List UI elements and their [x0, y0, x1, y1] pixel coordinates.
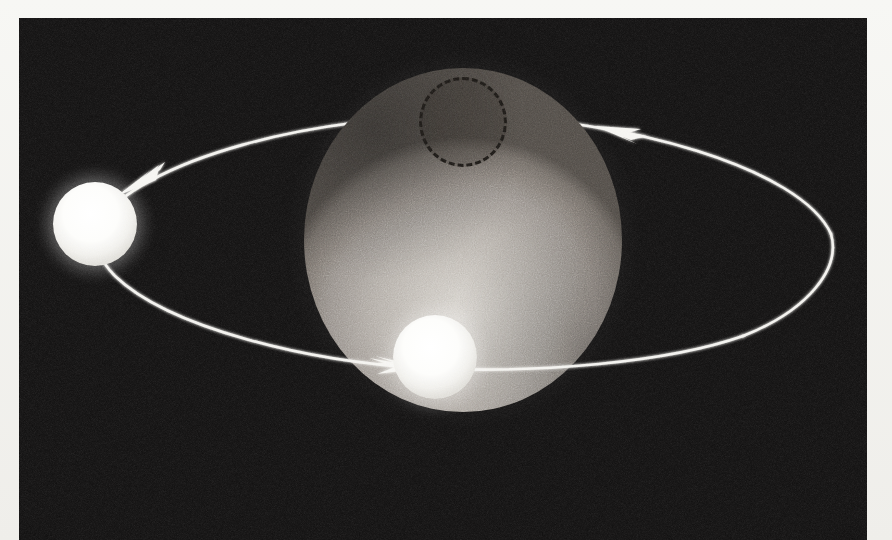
orbit-front-layer [19, 18, 867, 540]
satellite-left [53, 182, 137, 266]
orbit-arrow-upper-right [595, 126, 647, 144]
figure-root [0, 0, 892, 540]
photographic-plate [19, 18, 867, 540]
orbit-arrow-upper-left [117, 162, 165, 196]
satellite-front [393, 315, 477, 399]
